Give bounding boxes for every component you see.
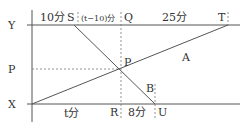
top-segment-1: 10分 bbox=[40, 12, 65, 23]
label-line-a: A bbox=[182, 52, 190, 63]
top-segment-3: 25分 bbox=[162, 12, 187, 23]
intersection-p: P bbox=[124, 57, 131, 68]
bottom-segment-2: 8分 bbox=[128, 107, 146, 118]
label-p-axis: P bbox=[8, 64, 15, 75]
point-s: S bbox=[67, 12, 75, 23]
label-x: X bbox=[8, 99, 16, 110]
point-r: R bbox=[110, 107, 118, 118]
line-b bbox=[74, 25, 155, 104]
bottom-segment-1: t分 bbox=[64, 108, 79, 119]
point-u: U bbox=[158, 107, 167, 118]
point-q: Q bbox=[124, 12, 133, 23]
top-segment-2: (t−10)分 bbox=[81, 14, 115, 23]
point-t: T bbox=[218, 12, 225, 23]
label-line-b: B bbox=[146, 83, 154, 94]
label-y: Y bbox=[8, 20, 15, 31]
